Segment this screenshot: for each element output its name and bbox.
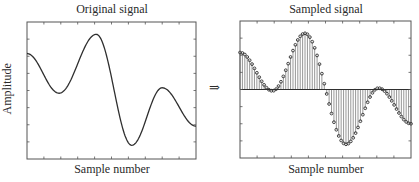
sampled-signal-plot <box>239 21 413 158</box>
original-signal-plot <box>27 22 196 159</box>
charts-canvas <box>0 0 419 182</box>
